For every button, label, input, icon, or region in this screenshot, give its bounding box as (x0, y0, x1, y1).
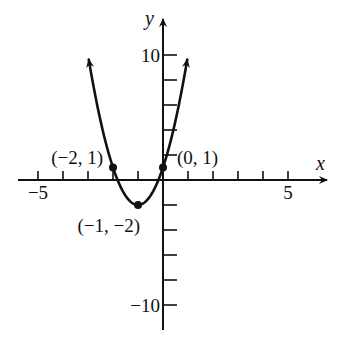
y-tick-label: 10 (141, 45, 160, 66)
y-tick-label: −10 (130, 295, 160, 316)
y-axis-label: y (143, 7, 154, 30)
point-marker (159, 164, 167, 172)
x-tick-label: 5 (283, 182, 293, 203)
parabola-graph: xy−5510−10 (−2, 1)(−1, −2)(0, 1) (0, 0, 342, 340)
point-label: (−1, −2) (77, 215, 140, 237)
x-axis-label: x (315, 152, 325, 174)
point-marker (134, 201, 142, 209)
points-layer (109, 164, 167, 210)
point-label: (0, 1) (177, 147, 218, 169)
point-label: (−2, 1) (51, 147, 103, 169)
annotations-layer: (−2, 1)(−1, −2)(0, 1) (51, 147, 218, 238)
parabola-left-branch (89, 59, 138, 205)
axes (18, 19, 327, 330)
point-marker (109, 164, 117, 172)
x-tick-label: −5 (28, 182, 48, 203)
curve-layer (89, 59, 188, 205)
